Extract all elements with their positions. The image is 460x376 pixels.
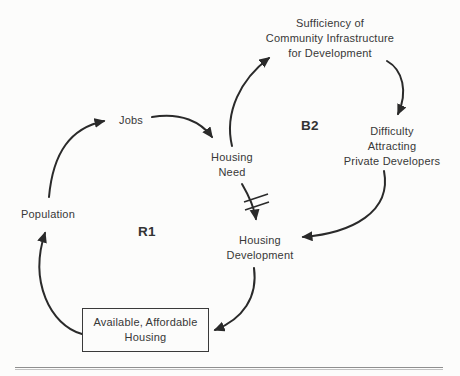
arrow-available-housing-to-population xyxy=(40,233,82,334)
arrow-difficulty-to-housing-development xyxy=(303,171,385,237)
arrow-population-to-jobs xyxy=(49,121,104,197)
loop-label-r1: R1 xyxy=(122,224,172,239)
node-population: Population xyxy=(8,207,88,222)
loop-label-b2: B2 xyxy=(285,118,335,133)
causal-loop-diagram: Sufficiency of Community Infrastructure … xyxy=(0,0,460,376)
node-available-affordable-housing-label: Available, Affordable Housing xyxy=(93,315,197,345)
node-difficulty-attracting-private-developers: Difficulty Attracting Private Developers xyxy=(332,124,452,169)
arrow-jobs-to-housing-need xyxy=(152,116,212,137)
node-housing-development: Housing Development xyxy=(210,233,310,263)
node-available-affordable-housing-box: Available, Affordable Housing xyxy=(82,308,209,352)
node-housing-need: Housing Need xyxy=(192,150,272,180)
node-sufficiency-of-community-infrastructure: Sufficiency of Community Infrastructure … xyxy=(240,16,420,61)
page-footer-rule xyxy=(15,367,443,370)
arrow-sufficiency-to-difficulty xyxy=(387,61,403,114)
arrow-housing-development-to-available-housing xyxy=(215,268,255,330)
node-jobs: Jobs xyxy=(101,113,161,128)
arrow-housing-need-to-sufficiency xyxy=(230,58,269,146)
